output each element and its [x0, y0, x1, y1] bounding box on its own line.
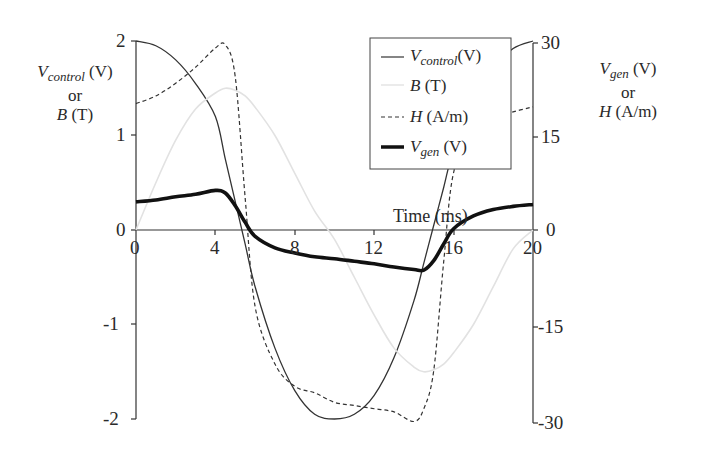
left-tick-1: 1	[116, 125, 126, 144]
legend-label-h: H (A/m)	[410, 107, 468, 126]
x-tick-8: 8	[290, 238, 300, 257]
x-tick-16: 16	[444, 238, 463, 257]
x-axis-title: Time (ms)	[393, 207, 468, 226]
x-tick-20: 20	[523, 238, 542, 257]
right-tick-15: 15	[541, 127, 560, 146]
left-tick-neg2: -2	[103, 409, 119, 428]
left-tick-neg1: -1	[103, 314, 119, 333]
right-axis-title: Vgen (V) or H (A/m)	[583, 59, 673, 121]
x-tick-12: 12	[364, 238, 383, 257]
right-tick-0: 0	[546, 220, 556, 239]
legend-label-vgen: Vgen (V)	[410, 137, 467, 161]
x-tick-0: 0	[130, 238, 140, 257]
left-axis-title: Vcontrol (V) or B (T)	[30, 62, 120, 124]
left-tick-2: 2	[116, 31, 126, 50]
left-tick-0: 0	[116, 220, 126, 239]
x-tick-4: 4	[210, 238, 220, 257]
right-tick-30: 30	[541, 33, 560, 52]
legend-label-vcontrol: Vcontrol(V)	[410, 46, 481, 70]
right-tick-neg30: -30	[538, 413, 563, 432]
right-tick-neg15: -15	[538, 317, 563, 336]
legend-label-b: B (T)	[410, 76, 446, 95]
